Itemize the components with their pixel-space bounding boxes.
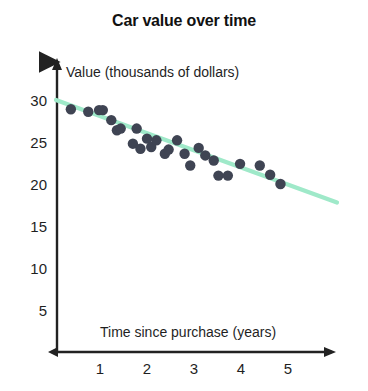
x-tick-label: 1 (96, 360, 104, 377)
y-tick-label: 5 (39, 302, 47, 319)
scatter-point (235, 159, 245, 169)
scatter-point (223, 170, 233, 180)
scatter-point (66, 104, 76, 114)
scatter-point (209, 155, 219, 165)
x-tick-label: 2 (143, 360, 151, 377)
scatter-point (185, 160, 195, 170)
scatter-point (106, 115, 116, 125)
scatter-point (255, 160, 265, 170)
scatter-point (163, 144, 173, 154)
scatter-point (83, 107, 93, 117)
scatter-point (179, 149, 189, 159)
plot-area (0, 0, 368, 391)
x-tick-label: 3 (190, 360, 198, 377)
y-tick-label: 20 (30, 176, 47, 193)
scatter-point (265, 170, 275, 180)
scatter-point (151, 135, 161, 145)
x-axis-arrow-right-icon (324, 347, 336, 357)
x-tick-label: 5 (284, 360, 292, 377)
y-tick-label: 30 (30, 92, 47, 109)
y-tick-label: 15 (30, 218, 47, 235)
y-axis-arrow-icon (52, 58, 62, 70)
x-axis-arrow-left-icon (48, 347, 58, 357)
x-tick-label: 4 (237, 360, 245, 377)
scatter-point (115, 123, 125, 133)
y-tick-label: 25 (30, 134, 47, 151)
chart-container: Car value over time Value (thousands of … (0, 0, 368, 391)
scatter-point (98, 105, 108, 115)
scatter-point (275, 179, 285, 189)
y-tick-label: 10 (30, 260, 47, 277)
scatter-point (213, 170, 223, 180)
scatter-point (135, 144, 145, 154)
axes (48, 58, 336, 357)
scatter-point (172, 135, 182, 145)
scatter-point (131, 123, 141, 133)
